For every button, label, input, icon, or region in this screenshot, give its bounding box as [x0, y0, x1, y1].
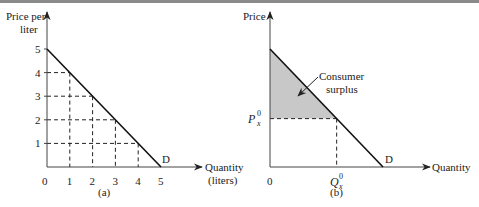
y-axis-label-b: Price [243, 10, 266, 22]
panel-a: Price per liter Quantity (liters) (a) D … [6, 10, 244, 199]
x-tick-label: 0 [42, 175, 48, 187]
annotation-line1: Consumer [319, 70, 365, 82]
demand-curve-a [47, 49, 161, 167]
origin-label-b: 0 [267, 175, 273, 187]
x-axis-label-line2: (liters) [208, 174, 238, 187]
y-tick-label: 5 [35, 43, 41, 55]
quantity-label-sup: 0 [339, 172, 343, 181]
x-axis-label-b: Quantity [432, 161, 471, 173]
x-tick-label: 1 [67, 175, 73, 187]
annotation-line2: surplus [326, 83, 358, 95]
x-axis-label-line1: Quantity [205, 161, 244, 173]
quantity-level-label: Q x 0 [330, 172, 343, 191]
price-label-main: P [247, 112, 256, 126]
demand-label-b: D [385, 153, 393, 165]
price-level-label: P x 0 [247, 109, 261, 128]
quantity-label-main: Q [330, 175, 339, 189]
demand-label-a: D [162, 153, 170, 165]
price-label-sub: x [256, 119, 261, 128]
y-axis-label-line1: Price per [6, 10, 46, 22]
x-tick-label: 4 [135, 175, 141, 187]
panel-b: Price Quantity 0 (b) D Consumer surplus … [243, 10, 471, 199]
y-tick-label: 1 [35, 137, 41, 149]
x-tick-label: 2 [90, 175, 96, 187]
y-tick-label: 4 [35, 67, 41, 79]
quantity-label-sub: x [338, 182, 343, 191]
x-tick-label: 5 [158, 175, 164, 187]
y-tick-label: 3 [35, 90, 41, 102]
price-label-sup: 0 [257, 109, 261, 118]
chart-canvas: Price per liter Quantity (liters) (a) D … [0, 0, 479, 207]
y-axis-label-line2: liter [20, 23, 38, 35]
y-tick-label: 2 [35, 114, 41, 126]
panel-a-label: (a) [98, 186, 111, 199]
x-tick-label: 3 [112, 175, 118, 187]
